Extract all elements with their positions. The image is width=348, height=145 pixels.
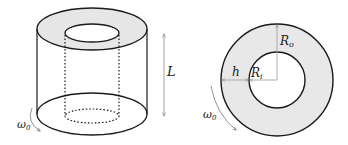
annulus-section: Ro Ri h	[221, 24, 333, 136]
outer-bottom-edge	[37, 93, 147, 135]
height-dimension: L	[164, 34, 176, 116]
gap-label: h	[232, 65, 240, 79]
inner-bottom-hidden	[65, 109, 119, 123]
rotation-label-left: ω0	[17, 118, 31, 132]
diagram-svg: L ω0 Ro Ri h ω0	[0, 0, 348, 145]
rotation-label-right: ω0	[203, 108, 217, 122]
inner-top-edge	[65, 24, 119, 42]
annular-cylinder	[37, 8, 147, 135]
diagram-canvas: L ω0 Ro Ri h ω0	[0, 0, 348, 145]
height-label: L	[166, 64, 176, 79]
